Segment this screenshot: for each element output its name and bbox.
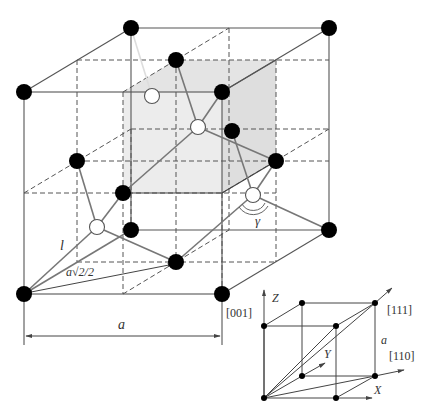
diamond-structure-diagram: l a√2/2 γ a [001] <box>0 0 432 419</box>
label-half-diagonal: a√2/2 <box>66 265 94 279</box>
atom-corner <box>321 20 337 36</box>
atom-face <box>168 254 184 270</box>
atom-interior <box>90 220 105 235</box>
label-direction-110: [110] <box>389 349 415 363</box>
label-direction-111: [111] <box>387 303 412 317</box>
label-x-axis: X <box>373 383 382 397</box>
atom-face <box>168 52 184 68</box>
atom-face <box>224 123 240 139</box>
atom-interior <box>145 89 160 104</box>
label-direction-001: [001] <box>226 306 252 320</box>
inset-cube: Z Y X [111] [110] a <box>261 288 415 401</box>
atom-face <box>69 153 85 169</box>
atom-face <box>268 153 284 169</box>
atom-corner <box>123 222 139 238</box>
atom-interior <box>191 120 206 135</box>
label-inset-edge: a <box>381 333 387 347</box>
atom-corner <box>16 84 32 100</box>
atom-face <box>115 185 131 201</box>
label-angle-gamma: γ <box>255 213 261 228</box>
label-lattice-constant: a <box>118 317 125 332</box>
atom-interior <box>246 188 261 203</box>
atom-corner <box>123 20 139 36</box>
atom-corner <box>16 286 32 302</box>
atom-corner <box>214 84 230 100</box>
label-z-axis: Z <box>272 291 279 305</box>
label-y-axis: Y <box>324 347 332 361</box>
label-bond-length: l <box>60 238 64 253</box>
atom-corner <box>321 222 337 238</box>
atom-corner <box>214 286 230 302</box>
